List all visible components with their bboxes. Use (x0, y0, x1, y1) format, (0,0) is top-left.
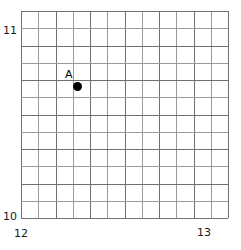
y-axis-label-top: 11 (3, 25, 17, 36)
grid-line-horizontal (21, 149, 228, 150)
plot-grid-area (21, 11, 228, 218)
chart-canvas: A 11 10 12 13 (0, 0, 241, 250)
grid-line-horizontal (21, 97, 228, 98)
grid-line-horizontal (21, 201, 228, 202)
grid-line-vertical (228, 11, 229, 218)
grid-line-horizontal (21, 46, 228, 47)
grid-line-horizontal (21, 11, 228, 12)
x-axis-label-left: 12 (14, 228, 28, 239)
y-axis-label-bottom: 10 (3, 211, 17, 222)
grid-line-horizontal (21, 28, 228, 29)
grid-line-horizontal (21, 80, 228, 81)
grid-line-horizontal (21, 184, 228, 185)
grid-line-horizontal (21, 132, 228, 133)
grid-line-horizontal (21, 166, 228, 167)
x-axis-label-right: 13 (197, 227, 211, 238)
grid-line-horizontal (21, 218, 228, 219)
grid-line-horizontal (21, 63, 228, 64)
data-point-a-label: A (65, 69, 73, 80)
grid-line-horizontal (21, 115, 228, 116)
data-point-a-marker[interactable] (73, 82, 82, 91)
